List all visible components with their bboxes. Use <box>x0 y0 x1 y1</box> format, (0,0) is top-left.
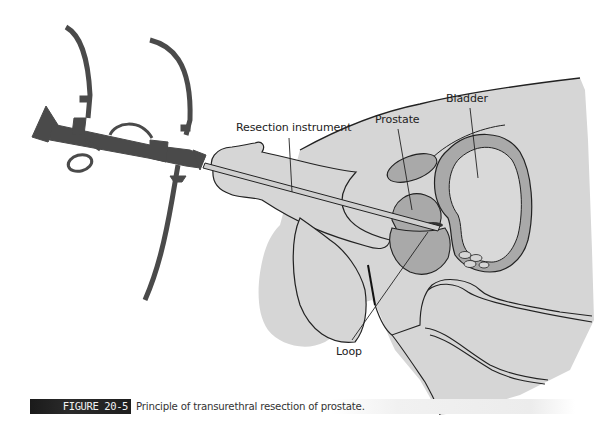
figure-illustration <box>0 0 594 437</box>
caption-text: Principle of transurethral resection of … <box>136 399 365 414</box>
label-prostate: Prostate <box>375 113 420 126</box>
label-loop: Loop <box>336 345 362 358</box>
resection-instrument-handle <box>32 27 206 300</box>
label-resection-instrument: Resection instrument <box>236 121 351 134</box>
label-bladder: Bladder <box>446 92 488 105</box>
figure-number-tag: FIGURE 20-5 <box>30 399 131 414</box>
figure-caption: FIGURE 20-5 Principle of transurethral r… <box>30 399 575 414</box>
